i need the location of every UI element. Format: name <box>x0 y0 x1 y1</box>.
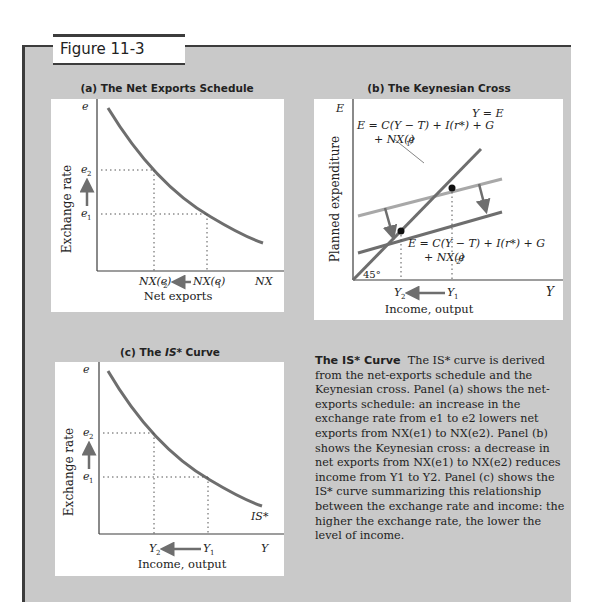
panel-c-chart: e e2 e1 Exchange rate IS* Y2 Y1 Y Income… <box>55 362 284 576</box>
figure-label-tab: Figure 11-3 <box>53 34 185 65</box>
svg-text:Y: Y <box>261 542 270 555</box>
svg-text:1: 1 <box>87 214 91 222</box>
svg-text:1: 1 <box>454 293 458 301</box>
figure-label: Figure 11-3 <box>60 40 145 58</box>
panel-a-chart: e e2 e1 Exchange rate NX(e2) NX(e1) NX N… <box>51 99 284 312</box>
svg-text:E = C(Y − T) + I(r*) + G: E = C(Y − T) + I(r*) + G <box>407 237 545 250</box>
svg-text:Planned expenditure: Planned expenditure <box>328 136 342 262</box>
panel-a-title: (a) The Net Exports Schedule <box>50 82 284 94</box>
svg-text:e: e <box>82 100 89 113</box>
panel-b: E Planned expenditure Y = E E = C(Y − T)… <box>314 99 563 320</box>
svg-text:): ) <box>459 251 464 264</box>
nx-curve <box>108 108 263 243</box>
figure-caption: The IS* Curve The IS* curve is derived f… <box>315 354 570 544</box>
svg-text:): ) <box>220 275 225 288</box>
svg-text:IS*: IS* <box>250 510 269 523</box>
svg-text:Exchange rate: Exchange rate <box>60 165 74 253</box>
svg-text:Income, output: Income, output <box>385 302 474 316</box>
svg-text:Net exports: Net exports <box>144 289 213 303</box>
svg-text:Income, output: Income, output <box>138 557 227 571</box>
shift-arrow-icon <box>479 184 485 207</box>
panel-b-title: (b) The Keynesian Cross <box>314 82 564 94</box>
svg-text:E: E <box>335 102 344 115</box>
panel-b-chart: E Planned expenditure Y = E E = C(Y − T)… <box>314 99 563 320</box>
caption-text: The IS* curve is derived from the net-ex… <box>315 354 564 542</box>
svg-text:2: 2 <box>401 293 405 301</box>
svg-text:1: 1 <box>89 477 93 485</box>
panel-c-title: (c) The IS* Curve <box>55 346 285 358</box>
svg-text:): ) <box>409 133 414 146</box>
svg-text:2: 2 <box>89 433 93 441</box>
svg-text:e: e <box>83 363 90 376</box>
svg-text:NX: NX <box>254 275 274 288</box>
panel-a: e e2 e1 Exchange rate NX(e2) NX(e1) NX N… <box>51 99 284 312</box>
svg-text:2: 2 <box>156 549 160 557</box>
svg-text:E = C(Y − T) + I(r*) + G: E = C(Y − T) + I(r*) + G <box>356 119 494 132</box>
is-star-curve <box>108 371 262 506</box>
caption-title: The IS* Curve <box>315 354 401 367</box>
svg-text:Y: Y <box>546 285 555 299</box>
svg-text:2: 2 <box>87 170 91 178</box>
svg-text:): ) <box>166 275 171 288</box>
svg-text:1: 1 <box>210 549 214 557</box>
shift-arrow-icon <box>385 208 392 233</box>
svg-text:45°: 45° <box>363 269 381 280</box>
panel-c: e e2 e1 Exchange rate IS* Y2 Y1 Y Income… <box>55 362 284 576</box>
svg-text:Exchange rate: Exchange rate <box>62 428 76 516</box>
